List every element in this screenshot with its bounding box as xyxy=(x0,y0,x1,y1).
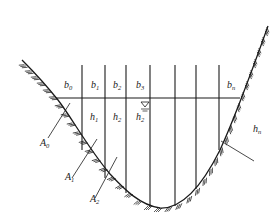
label-h2-b: h2 xyxy=(136,111,145,123)
label-A0: A0 xyxy=(39,137,50,149)
label-A1: A1 xyxy=(64,171,74,183)
label-bn: bn xyxy=(227,79,235,91)
label-b1: b1 xyxy=(91,79,99,91)
label-b2: b2 xyxy=(113,79,122,91)
label-b0: b0 xyxy=(64,79,73,91)
channel-bed-line xyxy=(22,26,268,208)
label-hn: hn xyxy=(253,123,261,135)
label-h2-a: h2 xyxy=(113,111,122,123)
area-leader-lines xyxy=(48,103,254,198)
triangle-down-icon xyxy=(141,102,149,111)
label-b3: b3 xyxy=(136,79,145,91)
label-A2: A2 xyxy=(89,193,100,205)
label-h1: h1 xyxy=(90,111,98,123)
channel-cross-section-diagram: b0 b1 b2 b3 bn h1 h2 h2 hn A0 A1 A2 xyxy=(0,0,280,224)
